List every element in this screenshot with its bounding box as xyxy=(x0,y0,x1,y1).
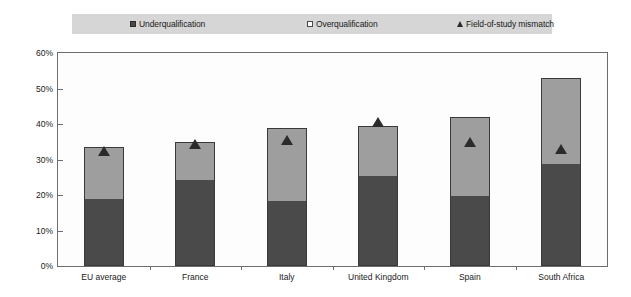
field-of-study-mismatch-marker[interactable] xyxy=(281,135,293,145)
bar-segment-overqualification[interactable] xyxy=(359,127,397,178)
x-axis-tick-mark xyxy=(424,266,425,270)
bar-segment-underqualification[interactable] xyxy=(359,176,397,265)
field-of-study-mismatch-marker[interactable] xyxy=(189,139,201,149)
x-axis-tick-label: South Africa xyxy=(538,272,584,282)
bar-segment-overqualification[interactable] xyxy=(451,118,489,198)
bar-group[interactable] xyxy=(175,142,215,266)
x-axis-tick-label: EU average xyxy=(81,272,126,282)
bar-segment-overqualification[interactable] xyxy=(85,148,123,201)
bar-group[interactable] xyxy=(84,147,124,266)
bars-layer xyxy=(0,0,631,297)
x-axis-tick-label: France xyxy=(182,272,208,282)
bar-group[interactable] xyxy=(267,128,307,266)
x-axis-tick-mark xyxy=(333,266,334,270)
bar-group[interactable] xyxy=(358,126,398,266)
field-of-study-mismatch-marker[interactable] xyxy=(98,146,110,156)
stacked-bar[interactable] xyxy=(267,128,307,266)
stacked-bar[interactable] xyxy=(541,78,581,266)
stacked-bar[interactable] xyxy=(358,126,398,266)
bar-segment-underqualification[interactable] xyxy=(268,201,306,265)
x-axis-tick-mark xyxy=(150,266,151,270)
bar-segment-overqualification[interactable] xyxy=(176,143,214,182)
stacked-bar[interactable] xyxy=(84,147,124,266)
field-of-study-mismatch-marker[interactable] xyxy=(555,144,567,154)
field-of-study-mismatch-marker[interactable] xyxy=(464,137,476,147)
x-axis-tick-label: United Kingdom xyxy=(348,272,408,282)
bar-segment-underqualification[interactable] xyxy=(176,180,214,265)
x-axis-tick-mark xyxy=(516,266,517,270)
x-axis-tick-mark xyxy=(241,266,242,270)
bar-segment-underqualification[interactable] xyxy=(451,196,489,265)
x-axis-tick-label: Spain xyxy=(459,272,481,282)
field-of-study-mismatch-marker[interactable] xyxy=(372,117,384,127)
bar-segment-underqualification[interactable] xyxy=(542,164,580,265)
bar-segment-underqualification[interactable] xyxy=(85,199,123,265)
chart-root: Underqualification Overqualification Fie… xyxy=(0,0,631,297)
bar-group[interactable] xyxy=(541,78,581,266)
x-axis-tick-label: Italy xyxy=(279,272,295,282)
stacked-bar[interactable] xyxy=(175,142,215,266)
